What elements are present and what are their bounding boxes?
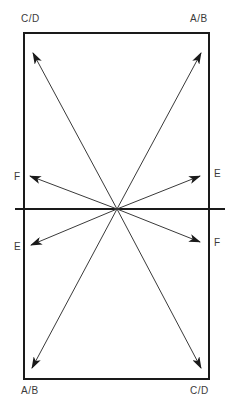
arrow-to-top-left [33,53,117,209]
label-mid-right-lower: F [214,238,221,248]
label-top-left: C/D [21,14,40,24]
arrow-to-left-lower [31,209,117,245]
arrow-to-right-upper [117,176,200,209]
label-mid-left-upper: F [14,172,21,182]
arrow-to-top-right [117,53,201,209]
diagram: C/D A/B F E E F A/B C/D [0,0,234,414]
label-mid-right-upper: E [214,169,221,179]
label-top-right: A/B [190,14,208,24]
arrow-to-bottom-left [32,209,117,368]
label-mid-left-lower: E [14,242,21,252]
frame-rectangle [24,33,209,379]
arrow-to-right-lower [117,209,200,242]
arrow-group [30,53,201,368]
label-bottom-left: A/B [21,386,39,396]
arrow-to-bottom-right [117,209,201,368]
arrow-to-left-upper [30,176,117,209]
label-bottom-right: C/D [190,386,209,396]
diagram-canvas [0,0,234,414]
